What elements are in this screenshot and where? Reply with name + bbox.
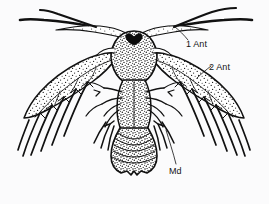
first-antenna-label: 1 Ant [186,39,207,49]
thorax [117,80,151,132]
mandible-label: Md [169,166,182,176]
abdomen [111,128,157,175]
right-second-antenna [152,53,244,118]
right-maxilliped [164,82,182,116]
figure-container: 1 Ant 2 Ant Md [0,0,269,204]
second-antenna-label: 2 Ant [209,62,230,72]
right-first-antenna [142,8,252,38]
left-first-antenna [20,10,126,38]
thoracic-setae-left [94,121,114,150]
left-second-antenna [24,53,116,118]
left-maxilliped [86,82,104,116]
larva-illustration [0,0,269,204]
